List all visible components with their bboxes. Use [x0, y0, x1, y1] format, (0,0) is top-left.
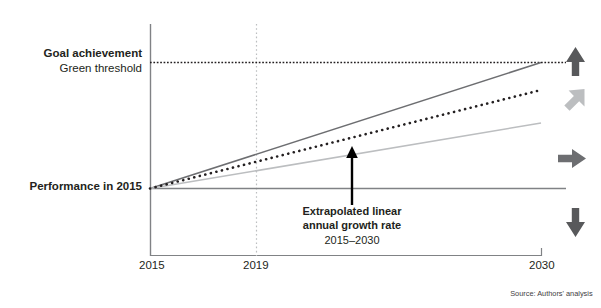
arrow-up-icon	[566, 47, 585, 76]
arrow-right-icon	[558, 149, 586, 168]
x-tick-label-2030: 2030	[529, 259, 555, 272]
arrow-down-icon	[566, 208, 585, 237]
chart-figure: Goal achievement Green threshold Perform…	[0, 0, 601, 308]
annotation-arrow-icon	[346, 146, 358, 205]
series-slower-trajectory	[150, 123, 541, 189]
source-note: Source: Authors' analysis	[511, 289, 593, 298]
annotation-callout: Extrapolated linear annual growth rate 2…	[302, 205, 401, 247]
goal-achievement-label: Goal achievement	[44, 47, 142, 60]
x-tick-label-2015: 2015	[139, 259, 165, 272]
annotation-line-1: Extrapolated linear	[302, 205, 401, 219]
performance-in-2015-label: Performance in 2015	[29, 180, 142, 193]
series-extrapolated-growth	[150, 90, 541, 189]
arrow-up-right-icon	[564, 89, 584, 111]
annotation-line-3: 2015–2030	[302, 233, 401, 248]
x-tick-label-2019: 2019	[243, 259, 269, 272]
series-required-trajectory	[150, 63, 541, 189]
green-threshold-label: Green threshold	[60, 62, 142, 75]
annotation-line-2: annual growth rate	[302, 219, 401, 233]
